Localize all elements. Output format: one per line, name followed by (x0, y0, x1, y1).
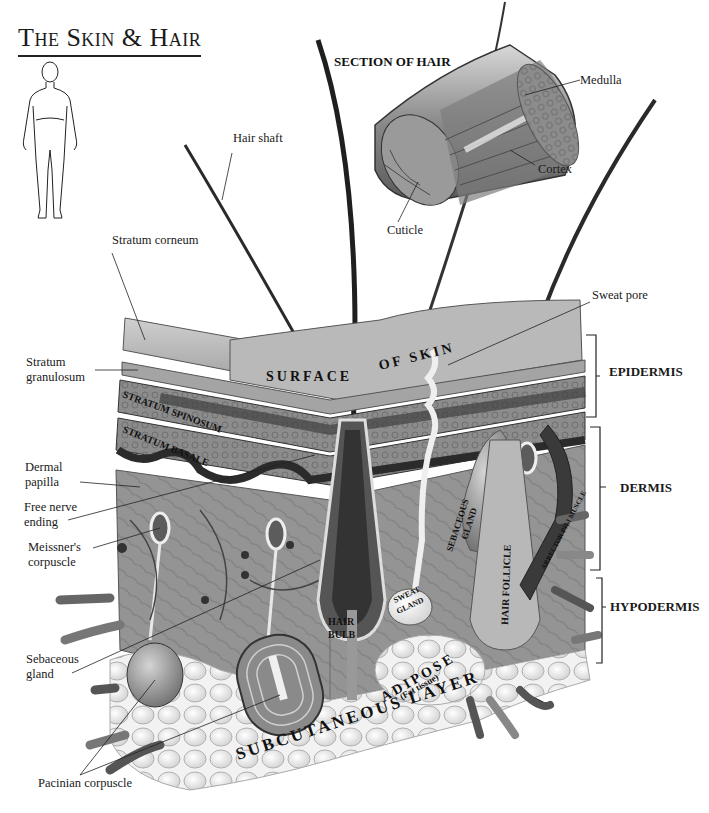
label-hypodermis: HYPODERMIS (610, 599, 700, 614)
skin-diagram-illustration: SURFACE OF SKIN STRATUM SPINOSUM STRATUM… (0, 0, 709, 813)
label-hair-shaft: Hair shaft (233, 131, 283, 146)
label-stratum-granulosum: Stratum granulosum (26, 355, 85, 385)
label-pacinian-corpuscle: Pacinian corpuscle (38, 776, 132, 791)
label-epidermis: EPIDERMIS (609, 364, 683, 379)
label-meissners-corpuscle: Meissner's corpuscle (28, 540, 81, 570)
label-dermis: DERMIS (620, 480, 672, 495)
label-cuticle: Cuticle (387, 223, 423, 238)
label-dermal-papilla: Dermal papilla (25, 460, 62, 490)
label-medulla: Medulla (580, 73, 622, 88)
svg-text:HAIR: HAIR (328, 616, 355, 627)
label-cortex: Cortex (538, 162, 572, 177)
section-of-hair-title: SECTION OF HAIR (334, 54, 451, 70)
human-body-outline-icon (23, 62, 76, 218)
label-sweat-pore: Sweat pore (592, 288, 648, 303)
label-stratum-corneum: Stratum corneum (112, 233, 198, 248)
label-free-nerve-ending: Free nerve ending (24, 500, 77, 530)
surface-of-skin-label: SURFACE (266, 369, 352, 384)
label-sebaceous-gland: Sebaceous gland (26, 652, 79, 682)
hair-section-illustration (366, 45, 591, 219)
svg-text:BULB: BULB (328, 629, 356, 640)
